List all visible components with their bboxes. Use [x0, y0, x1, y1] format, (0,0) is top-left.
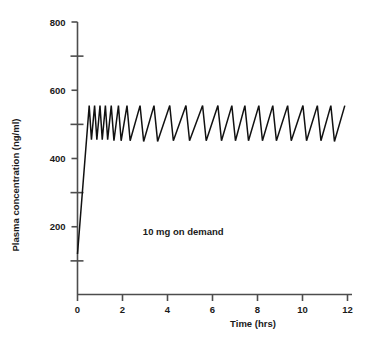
x-tick-label: 6: [210, 304, 215, 315]
x-tick-label: 8: [255, 304, 260, 315]
chart-figure: 200400600800 024681012 Plasma concentrat…: [0, 0, 372, 348]
y-tick-label: 800: [50, 17, 66, 28]
x-tick-label: 10: [297, 304, 308, 315]
dose-annotation-label: 10 mg on demand: [143, 226, 224, 237]
y-axis-tick-labels: 200400600800: [50, 17, 66, 233]
y-tick-label: 600: [50, 85, 66, 96]
plasma-concentration-chart: 200400600800 024681012 Plasma concentrat…: [0, 0, 372, 348]
x-tick-label: 12: [342, 304, 353, 315]
x-tick-label: 0: [75, 304, 80, 315]
axis-lines: [77, 22, 352, 295]
x-tick-label: 2: [120, 304, 125, 315]
y-axis-title: Plasma concentration (ng/ml): [10, 118, 21, 251]
x-axis-ticks: [78, 295, 348, 301]
y-tick-label: 200: [50, 221, 66, 232]
x-axis-tick-labels: 024681012: [75, 304, 353, 315]
y-tick-label: 400: [50, 153, 66, 164]
x-tick-label: 4: [165, 304, 171, 315]
x-axis-title: Time (hrs): [230, 318, 276, 329]
